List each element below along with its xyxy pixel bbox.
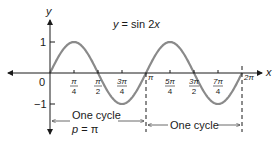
tick-label-pi-4: π 4 xyxy=(70,77,78,96)
cycle-annotation-2: One cycle xyxy=(148,119,240,131)
tick-label-2pi: 2π xyxy=(243,73,254,82)
svg-text:π: π xyxy=(95,77,101,86)
svg-text:4: 4 xyxy=(72,87,77,96)
svg-text:One cycle: One cycle xyxy=(72,109,121,121)
tick-label-pi: π xyxy=(148,73,154,82)
tick-label-5pi-4: 5π 4 xyxy=(165,77,176,96)
svg-text:4: 4 xyxy=(168,87,173,96)
cycle-annotation-1: One cycle p = π xyxy=(52,109,144,135)
tick-label-7pi-4: 7π 4 xyxy=(213,77,224,96)
svg-text:π: π xyxy=(71,77,77,86)
tick-label-3pi-4: 3π 4 xyxy=(117,77,128,96)
sine-chart: y x y = sin 2x 1 −1 0 π 4 π 2 3π 4 π 5π … xyxy=(0,0,277,141)
svg-text:One cycle: One cycle xyxy=(170,119,219,131)
x-axis-label: x xyxy=(265,66,272,78)
y-tick-label-neg1: −1 xyxy=(34,98,47,110)
y-axis-label: y xyxy=(45,5,53,17)
svg-text:3π: 3π xyxy=(117,77,127,86)
svg-text:3π: 3π xyxy=(189,77,199,86)
chart-title: y = sin 2x xyxy=(112,18,160,30)
svg-text:5π: 5π xyxy=(165,77,175,86)
y-tick-label-1: 1 xyxy=(40,36,46,48)
svg-text:2: 2 xyxy=(96,87,101,96)
svg-text:2: 2 xyxy=(192,87,197,96)
origin-label: 0 xyxy=(39,76,45,88)
title-var: x xyxy=(153,18,160,30)
svg-text:p = π: p = π xyxy=(71,123,99,135)
svg-text:4: 4 xyxy=(120,87,125,96)
title-eq: = sin 2 xyxy=(119,18,155,30)
svg-text:4: 4 xyxy=(216,87,221,96)
tick-label-3pi-2: 3π 2 xyxy=(189,77,200,96)
svg-text:7π: 7π xyxy=(213,77,223,86)
